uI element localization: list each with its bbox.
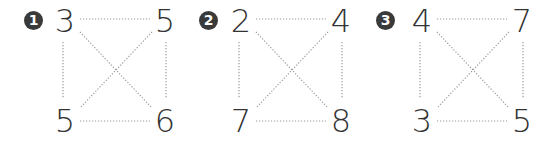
number-bottom-left: 7 [230, 105, 252, 137]
number-top-right: 5 [154, 5, 176, 37]
number-top-left: 4 [411, 5, 433, 37]
puzzle-panel-1: 1 3 5 5 6 [0, 0, 180, 141]
number-top-left: 3 [54, 5, 76, 37]
number-top-right: 4 [330, 5, 352, 37]
number-bottom-right: 6 [154, 105, 176, 137]
puzzle-panel-3: 3 4 7 3 5 [355, 0, 535, 141]
connecting-dotted-lines [355, 0, 535, 141]
number-bottom-left: 3 [411, 105, 433, 137]
connecting-dotted-lines [176, 0, 356, 141]
number-bottom-right: 8 [330, 105, 352, 137]
number-bottom-right: 5 [511, 105, 533, 137]
number-top-right: 7 [511, 5, 533, 37]
number-top-left: 2 [230, 5, 252, 37]
connecting-dotted-lines [0, 0, 180, 141]
puzzle-panel-2: 2 2 4 7 8 [176, 0, 356, 141]
number-bottom-left: 5 [54, 105, 76, 137]
